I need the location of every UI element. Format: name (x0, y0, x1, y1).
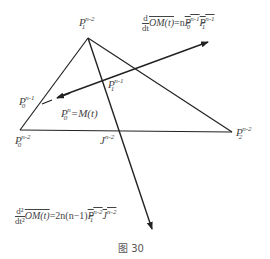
formula-first-derivative: d dt OM(t)=nP0n-1P1n-1 (142, 14, 215, 33)
label-p0-n2: P0n-2 (15, 134, 31, 149)
fraction-d-dt: d dt (142, 14, 149, 33)
tangent-arrow (58, 42, 208, 97)
label-p0-n1: P0n-1 (19, 95, 35, 110)
label-p1-n2: P1n-2 (79, 16, 95, 31)
figure-caption: 图 30 (118, 240, 144, 255)
label-p1-n1: P1n-1 (108, 78, 124, 93)
fraction-d2-dt2: d² dt² (15, 207, 25, 226)
edge-p0-p2 (20, 130, 232, 132)
label-j-n2: Jn-2 (100, 134, 114, 146)
tangent-left-stub (42, 100, 52, 104)
label-p2-n2: P2n-2 (236, 126, 252, 141)
tangent-left-arrow (57, 93, 70, 98)
formula-second-derivative: d² dt² OM(t)=2n(n−1)P1n-2Jn-2 (15, 207, 116, 226)
label-p0-n-mt: P0n=M(t) (61, 107, 98, 122)
